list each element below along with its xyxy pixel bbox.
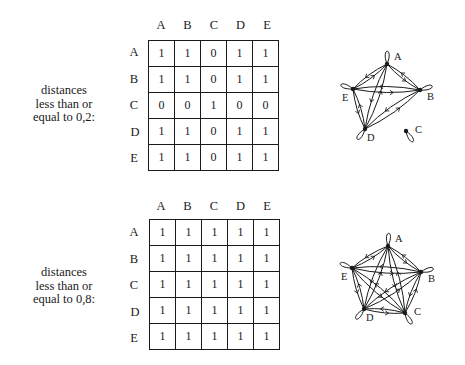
svg-text:B: B <box>428 273 435 284</box>
directed-graph: ABCDE <box>0 0 465 365</box>
svg-text:C: C <box>414 306 421 317</box>
svg-text:E: E <box>341 271 347 282</box>
svg-text:D: D <box>366 312 374 323</box>
svg-text:A: A <box>395 233 403 244</box>
panel-threshold-0-8: distances less than or equal to 0,8: A B… <box>0 182 465 364</box>
